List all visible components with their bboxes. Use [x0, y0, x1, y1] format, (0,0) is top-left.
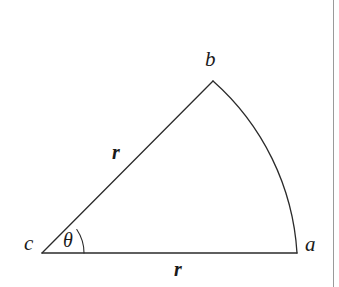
angle-marker-arc — [77, 230, 84, 254]
sector-drawing — [0, 0, 339, 287]
slant-radius-line — [42, 81, 213, 253]
angle-label-theta: θ — [63, 230, 73, 250]
radius-label-slant: r — [112, 142, 120, 162]
vertex-label-a: a — [305, 234, 316, 255]
vertex-label-c: c — [24, 233, 33, 254]
outer-circular-arc — [213, 81, 297, 253]
radius-label-base: r — [174, 259, 182, 279]
sector-figure: c a b r r θ — [0, 0, 339, 287]
vertex-label-b: b — [205, 49, 216, 70]
page-edge-line — [333, 0, 334, 287]
